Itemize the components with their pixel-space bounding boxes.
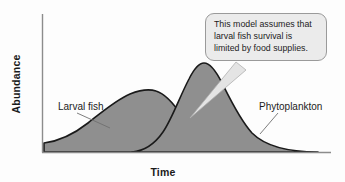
x-axis-title: Time (118, 166, 208, 178)
y-axis-title: Abundance (10, 47, 22, 121)
figure-container: Abundance Time Larval fish Phytoplankton… (0, 0, 345, 182)
phytoplankton-leader-line (260, 113, 278, 134)
series-label-larval-fish: Larval fish (58, 101, 104, 112)
series-label-phytoplankton: Phytoplankton (259, 101, 322, 112)
callout-annotation: This model assumes that larval fish surv… (205, 13, 327, 61)
